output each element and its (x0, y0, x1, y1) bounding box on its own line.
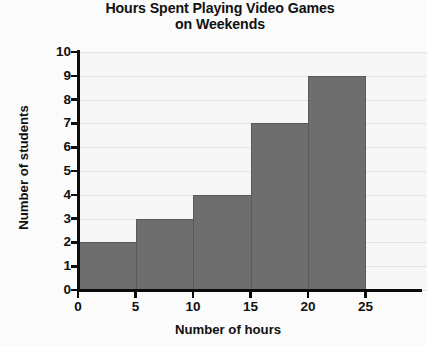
x-tick-10 (192, 291, 195, 298)
y-tick-10 (71, 51, 78, 54)
x-tick-label-25: 25 (344, 300, 388, 314)
y-tick-6 (71, 146, 78, 149)
x-tick-label-10: 10 (171, 300, 215, 314)
y-tick-label-6: 6 (31, 140, 71, 154)
y-tick-label-2: 2 (31, 235, 71, 249)
y-tick-5 (71, 170, 78, 173)
bars-layer (78, 52, 427, 290)
y-tick-label-4: 4 (31, 188, 71, 202)
chart-title-line-2: on Weekends (50, 17, 390, 33)
y-tick-3 (71, 217, 78, 220)
y-tick-label-5: 5 (31, 164, 71, 178)
y-tick-label-9: 9 (31, 69, 71, 83)
x-tick-label-0: 0 (56, 300, 100, 314)
y-tick-label-7: 7 (31, 116, 71, 130)
x-axis-title: Number of hours (78, 322, 378, 337)
y-tick-7 (71, 122, 78, 125)
x-tick-15 (249, 291, 252, 298)
bar-0-5 (78, 242, 136, 290)
y-tick-1 (71, 265, 78, 268)
bar-20-25 (308, 76, 366, 290)
y-tick-2 (71, 241, 78, 244)
chart-title-line-1: Hours Spent Playing Video Games (50, 1, 390, 17)
x-tick-0 (77, 291, 80, 298)
x-tick-label-5: 5 (114, 300, 158, 314)
y-tick-label-10: 10 (31, 45, 71, 59)
bar-15-20 (251, 123, 309, 290)
x-tick-5 (134, 291, 137, 298)
bar-5-10 (136, 219, 194, 290)
y-tick-label-1: 1 (31, 259, 71, 273)
x-tick-20 (307, 291, 310, 298)
y-tick-9 (71, 75, 78, 78)
histogram-figure: Hours Spent Playing Video Games on Weeke… (0, 0, 427, 346)
x-tick-25 (364, 291, 367, 298)
x-tick-label-15: 15 (229, 300, 273, 314)
y-tick-label-0: 0 (31, 283, 71, 297)
x-tick-label-20: 20 (286, 300, 330, 314)
chart-title: Hours Spent Playing Video Games on Weeke… (50, 1, 390, 32)
y-tick-4 (71, 194, 78, 197)
y-tick-label-3: 3 (31, 212, 71, 226)
y-tick-label-8: 8 (31, 93, 71, 107)
bar-10-15 (193, 195, 251, 290)
y-tick-8 (71, 98, 78, 101)
y-axis-title: Number of students (16, 88, 31, 248)
